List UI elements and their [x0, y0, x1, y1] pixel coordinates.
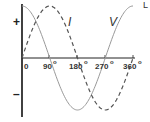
svg-text:o: o [110, 59, 114, 65]
svg-text:270: 270 [95, 62, 109, 71]
x-tick-label-0: 0 [24, 62, 29, 71]
svg-text:180: 180 [69, 62, 83, 71]
svg-text:o: o [84, 59, 88, 65]
svg-text:o: o [53, 59, 57, 65]
negative-sign: – [13, 87, 20, 101]
phase-chart: + – 0 90 o 180 o 270 o 360 o I V L [0, 0, 150, 122]
svg-text:o: o [138, 59, 142, 65]
current-label: I [68, 15, 72, 29]
corner-label: L [143, 0, 148, 10]
svg-text:360: 360 [123, 62, 137, 71]
x-tick-label-90: 90 o [43, 59, 57, 71]
voltage-label: V [109, 15, 118, 29]
svg-text:90: 90 [43, 62, 52, 71]
positive-sign: + [13, 15, 20, 29]
x-tick-label-180: 180 o [69, 59, 88, 71]
